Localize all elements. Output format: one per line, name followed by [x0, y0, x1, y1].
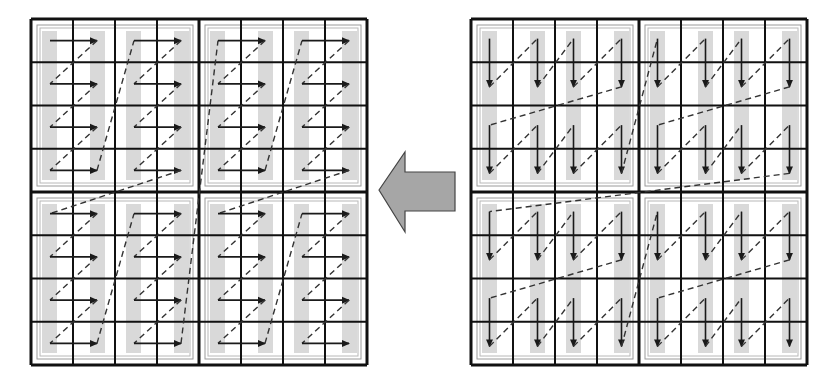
figure: Block-wise scan order transformation: co…	[0, 0, 837, 388]
diagram-canvas	[0, 0, 837, 388]
horizontal-scan-grid	[31, 19, 367, 365]
vertical-scan-grid	[471, 19, 807, 365]
left-arrow-icon	[379, 152, 455, 232]
